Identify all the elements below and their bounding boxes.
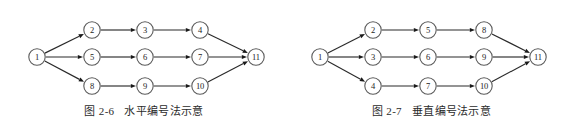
node-label: 8 bbox=[90, 81, 94, 91]
figure-2-7: 1258369471011 图 2-7垂直编号法示意 bbox=[288, 0, 575, 130]
edge-arrowhead-icon bbox=[359, 55, 364, 59]
edge-arrowhead-icon bbox=[414, 55, 419, 59]
edge-line bbox=[328, 36, 361, 53]
edge-arrowhead-icon bbox=[414, 28, 419, 32]
graph-node-9: 9 bbox=[476, 49, 492, 65]
node-label: 9 bbox=[482, 52, 486, 62]
graph-node-6: 6 bbox=[137, 49, 153, 65]
graph-node-10: 10 bbox=[192, 78, 208, 94]
edge-line bbox=[328, 61, 361, 79]
node-label: 5 bbox=[426, 25, 430, 35]
edge-arrowhead-icon bbox=[131, 84, 136, 88]
graph-node-5: 5 bbox=[84, 49, 100, 65]
diagram-2-7: 1258369471011 bbox=[288, 0, 575, 100]
node-label: 6 bbox=[143, 52, 147, 62]
edge-line bbox=[208, 64, 244, 82]
edge-arrowhead-icon bbox=[414, 84, 419, 88]
node-label: 9 bbox=[143, 81, 147, 91]
node-label: 10 bbox=[196, 81, 204, 91]
node-label: 2 bbox=[90, 25, 94, 35]
figure-2-7-caption: 图 2-7垂直编号法示意 bbox=[288, 102, 575, 118]
edge-arrowhead-icon bbox=[78, 34, 84, 38]
figure-2-6-caption-text: 水平编号法示意 bbox=[124, 105, 203, 117]
graph-node-11: 11 bbox=[248, 49, 264, 65]
graph-node-2: 2 bbox=[365, 22, 381, 38]
graph-node-7: 7 bbox=[192, 49, 208, 65]
graph-node-2: 2 bbox=[84, 22, 100, 38]
node-label: 11 bbox=[252, 52, 260, 62]
graph-node-3: 3 bbox=[137, 22, 153, 38]
node-label: 5 bbox=[90, 52, 94, 62]
edge-arrowhead-icon bbox=[524, 49, 530, 53]
figure-2-6-caption-number: 图 2-6 bbox=[84, 105, 114, 117]
edge-line bbox=[208, 34, 243, 51]
edge-line bbox=[45, 61, 80, 79]
graph-node-1: 1 bbox=[29, 49, 45, 65]
edge-arrowhead-icon bbox=[131, 55, 136, 59]
graph-node-1: 1 bbox=[312, 49, 328, 65]
figure-pair-page: 1234567891011 图 2-6水平编号法示意 1258369471011… bbox=[0, 0, 575, 130]
graph-node-8: 8 bbox=[84, 78, 100, 94]
node-label: 11 bbox=[534, 52, 542, 62]
graph-node-9: 9 bbox=[137, 78, 153, 94]
node-label: 1 bbox=[318, 52, 322, 62]
node-label: 1 bbox=[35, 52, 39, 62]
node-label: 10 bbox=[480, 81, 488, 91]
edge-arrowhead-icon bbox=[470, 84, 475, 88]
graph-node-4: 4 bbox=[192, 22, 208, 38]
edge-arrowhead-icon bbox=[186, 55, 191, 59]
figure-2-6-caption: 图 2-6水平编号法示意 bbox=[0, 102, 288, 118]
node-label: 8 bbox=[482, 25, 486, 35]
node-label: 7 bbox=[426, 81, 430, 91]
graph-node-3: 3 bbox=[365, 49, 381, 65]
graph-node-6: 6 bbox=[420, 49, 436, 65]
diagram-2-6: 1234567891011 bbox=[0, 0, 288, 100]
graph-node-7: 7 bbox=[420, 78, 436, 94]
edge-arrowhead-icon bbox=[525, 61, 531, 65]
edge-line bbox=[45, 36, 79, 53]
graph-node-4: 4 bbox=[365, 78, 381, 94]
edge-line bbox=[492, 64, 526, 82]
node-label: 6 bbox=[426, 52, 430, 62]
edge-arrowhead-icon bbox=[78, 55, 83, 59]
edge-arrowhead-icon bbox=[186, 84, 191, 88]
edge-line bbox=[492, 34, 525, 51]
node-label: 3 bbox=[143, 25, 147, 35]
edge-arrowhead-icon bbox=[131, 28, 136, 32]
edge-arrowhead-icon bbox=[470, 28, 475, 32]
node-label: 2 bbox=[371, 25, 375, 35]
graph-node-5: 5 bbox=[420, 22, 436, 38]
graph-node-10: 10 bbox=[476, 78, 492, 94]
edge-arrowhead-icon bbox=[242, 61, 248, 65]
node-label: 7 bbox=[198, 52, 202, 62]
edge-arrowhead-icon bbox=[242, 55, 247, 59]
graph-node-8: 8 bbox=[476, 22, 492, 38]
node-label: 3 bbox=[371, 52, 375, 62]
graph-node-11: 11 bbox=[530, 49, 546, 65]
edge-arrowhead-icon bbox=[242, 49, 248, 53]
edge-arrowhead-icon bbox=[186, 28, 191, 32]
figure-2-7-caption-text: 垂直编号法示意 bbox=[412, 105, 491, 117]
figure-2-6: 1234567891011 图 2-6水平编号法示意 bbox=[0, 0, 288, 130]
edge-arrowhead-icon bbox=[78, 78, 84, 82]
edge-arrowhead-icon bbox=[359, 34, 365, 38]
figure-2-7-caption-number: 图 2-7 bbox=[372, 105, 402, 117]
edge-arrowhead-icon bbox=[470, 55, 475, 59]
edge-arrowhead-icon bbox=[360, 77, 366, 81]
edge-arrowhead-icon bbox=[524, 55, 529, 59]
